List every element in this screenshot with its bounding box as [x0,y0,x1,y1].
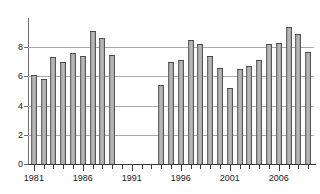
bar-1994 [158,85,164,164]
bar-2006 [276,43,282,164]
x-axis-label-1996: 1996 [171,174,191,183]
bar-1989 [109,55,115,165]
x-tick-2006 [279,165,280,171]
bar-1981 [31,75,37,164]
x-tick-1981 [34,165,35,171]
y-axis-label-4: 4 [18,101,23,110]
x-tick-1987 [93,165,94,169]
x-tick-2005 [269,165,270,169]
x-axis-label-1981: 1981 [24,174,44,183]
y-axis-label-6: 6 [18,72,23,81]
x-tick-1983 [53,165,54,169]
bar-1984 [60,62,66,164]
x-axis-label-2006: 2006 [269,174,289,183]
x-tick-1988 [102,165,103,169]
bar-2000 [217,68,223,164]
x-axis-line [28,164,316,165]
x-tick-2004 [259,165,260,169]
x-axis-label-2001: 2001 [220,174,240,183]
y-tick-0 [24,164,28,165]
bar-1986 [80,56,86,164]
bar-1999 [207,56,213,164]
bar-2002 [237,69,243,164]
bar-1985 [70,53,76,164]
bar-2004 [256,60,262,164]
y-axis-label-0: 0 [18,160,23,169]
plot-area: 02468198119861991199620012006 [28,18,314,164]
x-tick-2002 [240,165,241,169]
y-axis-label-2: 2 [18,130,23,139]
x-tick-1992 [142,165,143,169]
x-tick-1991 [132,165,133,171]
x-tick-1997 [191,165,192,169]
bar-1988 [99,38,105,164]
x-tick-1998 [200,165,201,169]
y-tick-8 [24,47,28,48]
bar-1987 [90,31,96,164]
x-tick-1982 [44,165,45,169]
bar-2007 [286,27,292,164]
x-tick-2001 [230,165,231,171]
bar-2008 [295,34,301,164]
x-tick-1984 [63,165,64,169]
y-tick-6 [24,76,28,77]
bar-1983 [50,57,56,164]
bar-2001 [227,88,233,164]
y-axis-label-8: 8 [18,43,23,52]
x-tick-2009 [308,165,309,169]
bar-1995 [168,62,174,164]
bar-2003 [246,66,252,164]
x-tick-2003 [249,165,250,169]
x-tick-1986 [83,165,84,171]
bar-chart: 02468198119861991199620012006 [0,0,320,194]
bar-1998 [197,44,203,164]
bar-2009 [305,52,311,164]
x-tick-1994 [161,165,162,169]
y-tick-4 [24,106,28,107]
bar-1997 [188,40,194,164]
bar-1996 [178,60,184,164]
x-tick-1985 [73,165,74,169]
x-tick-2000 [220,165,221,169]
y-tick-2 [24,135,28,136]
x-axis-label-1986: 1986 [73,174,93,183]
x-tick-1989 [112,165,113,169]
x-tick-1999 [210,165,211,169]
bar-1982 [41,79,47,164]
x-tick-1996 [181,165,182,171]
x-tick-1990 [122,165,123,169]
x-tick-1993 [151,165,152,169]
x-axis-label-1991: 1991 [122,174,142,183]
bar-2005 [266,44,272,164]
x-tick-1995 [171,165,172,169]
x-tick-2007 [289,165,290,169]
x-tick-2008 [298,165,299,169]
